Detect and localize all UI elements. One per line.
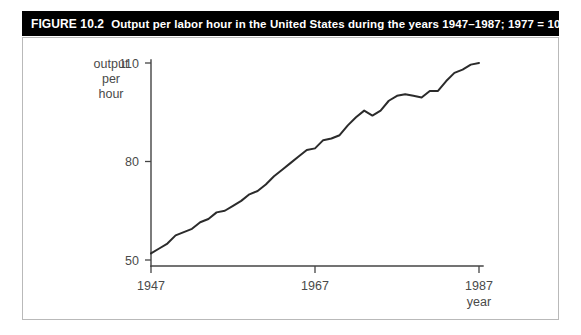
x-tick-label-1967: 1967 (301, 279, 329, 293)
figure-number-label: FIGURE 10.2 (31, 17, 104, 31)
chart-ticks (145, 63, 479, 273)
figure-caption-text: Output per labor hour in the United Stat… (111, 18, 559, 30)
figure-container: FIGURE 10.2Output per labor hour in the … (0, 0, 581, 335)
series-line-output-per-labor-hour (151, 63, 479, 253)
x-tick-label-1947: 1947 (137, 279, 165, 293)
x-tick-label-1987: 1987 (465, 279, 493, 293)
y-tick-label-50: 50 (125, 254, 139, 268)
y-axis-title-line-2: hour (98, 87, 123, 101)
line-chart: 5080110 194719671987 outputperhouryear (23, 38, 558, 319)
plot-frame: 5080110 194719671987 outputperhouryear (22, 37, 559, 320)
y-axis-title-line-0: output (94, 57, 129, 71)
figure-caption-inner: FIGURE 10.2Output per labor hour in the … (31, 17, 559, 31)
x-tick-labels: 194719671987 (137, 279, 493, 293)
y-tick-label-80: 80 (125, 155, 139, 169)
figure-caption-bar: FIGURE 10.2Output per labor hour in the … (22, 11, 559, 36)
y-axis-title-line-1: per (102, 72, 120, 86)
data-series (151, 63, 479, 253)
axis-titles: outputperhouryear (94, 57, 492, 310)
x-axis-title: year (467, 295, 491, 309)
